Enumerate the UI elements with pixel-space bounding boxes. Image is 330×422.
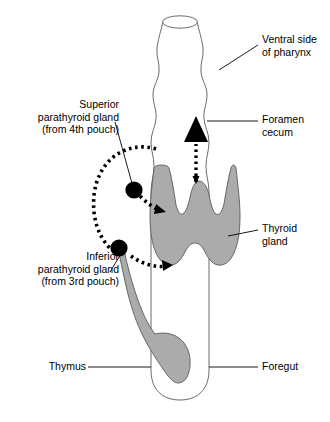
label-thymus: Thymus xyxy=(20,360,86,373)
label-inferior-parathyroid-gland: Inferior parathyroid gland (from 3rd pou… xyxy=(6,250,119,288)
superior-parathyroid-dot xyxy=(125,181,142,198)
label-ventral-side-of-pharynx: Ventral side of pharynx xyxy=(262,33,317,58)
label-thyroid-gland: Thyroid gland xyxy=(262,222,297,247)
diagram-canvas xyxy=(0,0,330,422)
leader-line-ventral-side xyxy=(219,45,258,70)
anatomy-diagram: Ventral side of pharynx Foramen cecum Th… xyxy=(0,0,330,422)
label-foramen-cecum: Foramen cecum xyxy=(262,113,304,138)
label-superior-parathyroid-gland: Superior parathyroid gland (from 4th pou… xyxy=(12,98,119,136)
label-foregut: Foregut xyxy=(262,360,298,373)
tube-top-opening-ellipse xyxy=(163,16,198,28)
